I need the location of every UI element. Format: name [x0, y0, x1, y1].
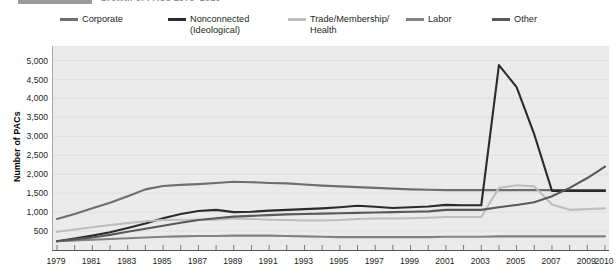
legend-label: Trade/Membership/ Health: [310, 14, 389, 35]
x-tick-label: 1983: [117, 256, 136, 266]
y-tick-label: 4,500: [0, 75, 48, 85]
y-tick-label: 1,500: [0, 188, 48, 198]
legend-swatch-icon: [288, 18, 306, 21]
x-tick-label: 2005: [506, 256, 525, 266]
x-tick-label: 1993: [294, 256, 313, 266]
x-tick-label: 1985: [153, 256, 172, 266]
plot-area: [52, 46, 609, 251]
chart-title-strip: Growth of PACs 1979–2010: [0, 0, 616, 7]
y-tick-label: 1,000: [0, 207, 48, 217]
chart-legend: CorporateNonconnected (Ideological)Trade…: [0, 14, 616, 38]
series-line-labor: [57, 236, 605, 242]
legend-label: Corporate: [82, 14, 123, 25]
legend-swatch-icon: [492, 18, 510, 21]
legend-item-other: Other: [492, 14, 537, 25]
x-tick-label: 1999: [400, 256, 419, 266]
x-tick-label: 1995: [329, 256, 348, 266]
legend-label: Other: [514, 14, 537, 25]
x-tick-label: 2010: [594, 256, 613, 266]
title-swatch: [18, 0, 92, 4]
y-tick-label: 3,000: [0, 131, 48, 141]
chart-figure: Growth of PACs 1979–2010 CorporateNoncon…: [0, 0, 616, 272]
chart-lines-svg: [53, 46, 609, 250]
x-tick-label: 1989: [223, 256, 242, 266]
y-tick-label: 500: [0, 226, 48, 236]
x-tick-label: 1981: [82, 256, 101, 266]
series-line-other: [57, 167, 605, 242]
x-tick-label: 2007: [541, 256, 560, 266]
x-tick-label: 2009: [577, 256, 596, 266]
legend-label: Labor: [428, 14, 452, 25]
x-tick-label: 1979: [46, 256, 65, 266]
y-tick-label: 5,000: [0, 56, 48, 66]
x-tick-label: 1991: [259, 256, 278, 266]
x-tick-label: 2003: [471, 256, 490, 266]
y-tick-label: 2,500: [0, 150, 48, 160]
x-tick-label: 2001: [435, 256, 454, 266]
legend-item-labor: Labor: [406, 14, 452, 25]
x-tick-label: 1987: [188, 256, 207, 266]
legend-item-corporate: Corporate: [60, 14, 123, 25]
legend-swatch-icon: [406, 18, 424, 21]
y-tick-label: 4,000: [0, 93, 48, 103]
legend-swatch-icon: [60, 18, 78, 21]
y-tick-label: 2,000: [0, 169, 48, 179]
legend-item-trade: Trade/Membership/ Health: [288, 14, 389, 35]
legend-item-nonconnected: Nonconnected (Ideological): [168, 14, 249, 35]
page-title: Growth of PACs 1979–2010: [100, 0, 221, 3]
legend-swatch-icon: [168, 18, 186, 21]
y-tick-label: 3,500: [0, 112, 48, 122]
series-line-nonconnected: [57, 65, 605, 241]
legend-label: Nonconnected (Ideological): [190, 14, 249, 35]
x-tick-label: 1997: [365, 256, 384, 266]
